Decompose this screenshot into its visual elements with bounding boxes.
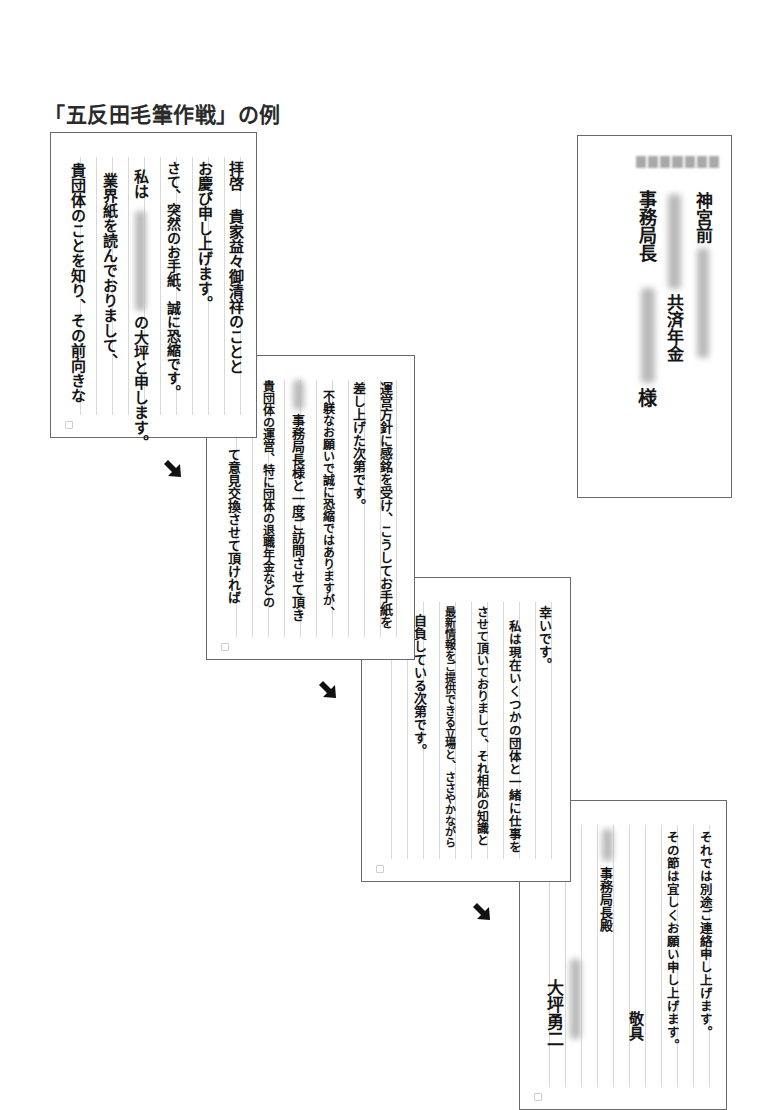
letter-line: 運営方針に感銘を受け、こうしてお手紙を [379, 382, 392, 629]
address-blurred [697, 248, 709, 358]
envelope-org-suffix: 共済年金 [665, 294, 682, 362]
letter-page-1: 拝啓 貴家益々御清祥のことと お慶び申し上げます。 さて、突然のお手紙、誠に恐縮… [50, 132, 257, 438]
sender-name: 大坪勇二 [545, 979, 562, 1047]
letter-line: 貴団体の運営、特に団体の退職年金などの [261, 380, 273, 608]
letter-line: 私は現在いくつかの団体と一緒に仕事を [507, 620, 520, 854]
addressee-title: 事務局長殿 [599, 867, 612, 932]
recipient-name-blurred [293, 380, 304, 410]
letter-line: 不躾なお願いで誠に恐縮ではありますが、 [321, 390, 333, 618]
letter-line: 私は [132, 169, 147, 199]
letter-line: て意見交換させて頂ければ [227, 448, 240, 604]
letter-line: それでは別途ご連絡申し上げます。 [698, 831, 711, 1039]
letter-line: 幸いです。 [538, 606, 551, 671]
envelope-address: 神宮前 [694, 192, 711, 243]
letter-line: さて、突然のお手紙、誠に恐縮です。 [166, 161, 180, 399]
letter-line: その節は宜しくお願い申し上げます。 [665, 831, 678, 1052]
letter-line: 貴団体のことを知り、その前向きな [69, 163, 84, 403]
letter-line: 最新情報をご提供できる立場と、ささやかながら [444, 606, 455, 848]
recipient-name-blurred [602, 829, 613, 861]
page-mark [65, 421, 73, 429]
envelope: 神宮前 共済年金 事務局長 様 [577, 135, 732, 498]
letter-line: お慶び申し上げます。 [196, 161, 211, 311]
postal-code-blurred [636, 156, 719, 168]
company-name-blurred [135, 211, 146, 311]
page-mark [221, 643, 229, 651]
envelope-recipient-title: 事務局長 [637, 190, 655, 262]
arrow-down-right-icon [317, 679, 339, 701]
letter-line: 事務局長様と一度ご訪問させて頂き [291, 414, 304, 622]
letter-line: 業界紙を読んでおりまして、 [101, 173, 116, 368]
closing-keigu: 敬具 [627, 1011, 642, 1041]
letter-line: させて頂いておりまして、それ相応の知識と [475, 606, 487, 846]
arrow-down-right-icon [471, 901, 493, 923]
letter-line: 拝啓 貴家益々御清祥のことと [227, 161, 242, 374]
page-title: 「五反田毛筆作戦」の例 [44, 98, 281, 128]
page-mark [376, 865, 384, 873]
letter-line: の大坪と申します。 [132, 315, 147, 450]
sender-company-blurred [570, 959, 581, 1039]
arrow-down-right-icon [162, 458, 184, 480]
envelope-honorific: 様 [636, 388, 655, 407]
ruled-lines [65, 157, 242, 415]
page-mark [534, 1093, 542, 1101]
letter-line: 差し上げた次第です。 [352, 382, 365, 512]
recipient-name-blurred [641, 288, 655, 383]
org-name-blurred [668, 194, 681, 289]
